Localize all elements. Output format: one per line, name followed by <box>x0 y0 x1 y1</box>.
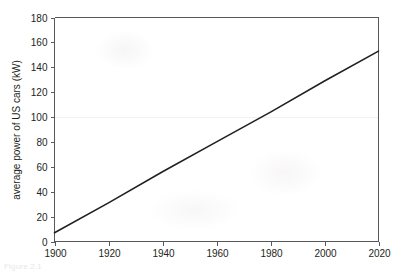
y-axis-tick-labels: 020406080100120140160180 <box>31 13 48 248</box>
y-tick-label: 140 <box>31 62 48 73</box>
x-tick-label: 1900 <box>44 248 67 259</box>
y-tick-label: 20 <box>36 212 48 223</box>
y-tick-label: 0 <box>42 237 48 248</box>
x-tick-label: 2020 <box>368 248 391 259</box>
x-tick-label: 2000 <box>314 248 337 259</box>
y-tick-label: 180 <box>31 13 48 24</box>
x-tick-label: 1920 <box>98 248 121 259</box>
y-tick-label: 60 <box>36 162 48 173</box>
data-series-line <box>55 51 379 233</box>
x-tick-label: 1980 <box>260 248 283 259</box>
figure-caption: Figure 2.1 <box>4 262 42 271</box>
y-tick-label: 80 <box>36 137 48 148</box>
y-tick-label: 100 <box>31 112 48 123</box>
y-tick-label: 40 <box>36 187 48 198</box>
x-axis-tick-labels: 1900192019401960198020002020 <box>44 248 391 259</box>
y-axis-ticks <box>51 19 55 243</box>
y-tick-label: 120 <box>31 87 48 98</box>
y-tick-label: 160 <box>31 37 48 48</box>
y-axis-label: average power of US cars (kW) <box>11 60 22 200</box>
axis-frame <box>55 18 379 242</box>
x-tick-label: 1960 <box>206 248 229 259</box>
chart-plot: 020406080100120140160180 190019201940196… <box>0 0 412 274</box>
figure-container: 020406080100120140160180 190019201940196… <box>0 0 412 274</box>
x-axis-ticks <box>56 242 380 246</box>
x-tick-label: 1940 <box>152 248 175 259</box>
